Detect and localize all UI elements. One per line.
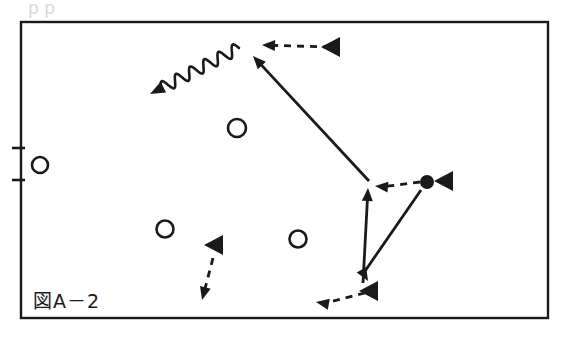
partial-cropped-text: p p [28, 0, 55, 18]
filled-dot-right [420, 175, 434, 189]
filled-dot-group [420, 175, 434, 189]
figure-canvas: p p 図A－2 [0, 0, 561, 341]
figure-container: p p 図A－2 [0, 0, 561, 341]
figure-caption: 図A－2 [33, 290, 100, 312]
